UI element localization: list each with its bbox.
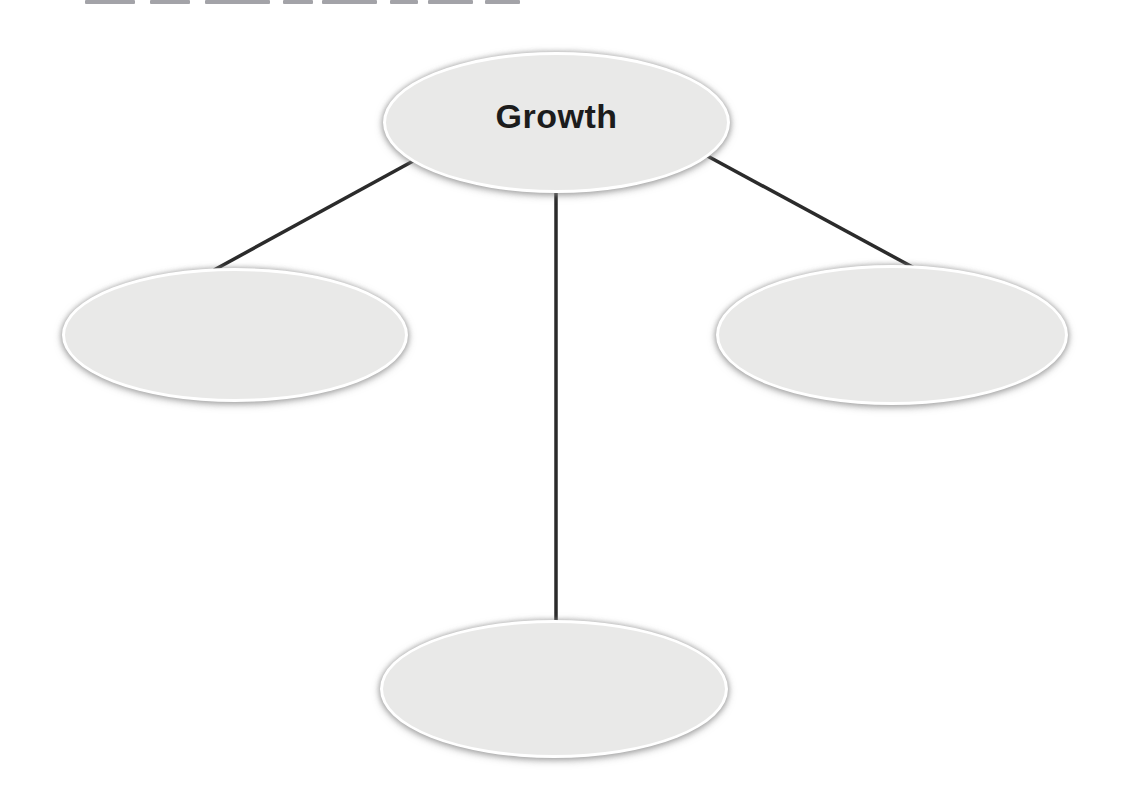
node-blank-bottom [380,620,728,758]
node-blank-left [62,268,408,402]
node-blank-right [716,265,1068,405]
worksheet-page: Growth [0,0,1123,807]
node-growth: Growth [383,52,730,193]
connector-center-to-left [214,160,415,270]
node-growth-label: Growth [496,97,618,136]
connector-center-to-right [700,152,918,270]
